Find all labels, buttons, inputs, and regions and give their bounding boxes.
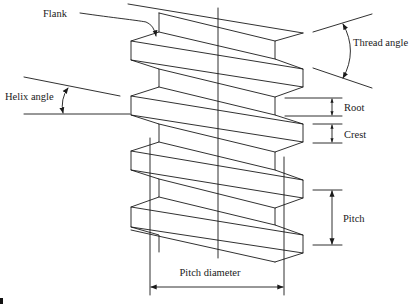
left-thread-profile	[131, 13, 159, 252]
crest-helix-lines	[128, 4, 303, 253]
root-dimension: Root	[285, 98, 365, 116]
helix-angle-arc-arrow-icon	[62, 88, 68, 113]
flank-label: Flank	[43, 8, 68, 19]
pitch-diameter-dimension: Pitch diameter	[150, 138, 284, 295]
thread-angle-callout: Thread angle	[313, 14, 408, 88]
crest-dimension: Crest	[313, 124, 366, 143]
thread-angle-lower-line	[313, 68, 372, 88]
flank-callout: Flank	[43, 8, 156, 36]
thread-angle-arc-arrow-icon	[343, 24, 351, 78]
right-thread-profile	[275, 33, 303, 262]
root-helix-lines	[131, 13, 275, 262]
helix-angle-label: Helix angle	[5, 91, 54, 102]
scan-artifact	[0, 298, 3, 304]
thread-angle-label: Thread angle	[353, 37, 408, 48]
root-label: Root	[344, 102, 365, 113]
thread-angle-upper-line	[313, 14, 372, 32]
pitch-dimension: Pitch	[313, 190, 365, 245]
helix-angle-callout: Helix angle	[5, 77, 130, 114]
thread-diagram: Pitch diameter Flank Helix angle Thread …	[0, 0, 409, 304]
pitch-diameter-label: Pitch diameter	[180, 267, 241, 278]
screw-thread	[128, 4, 303, 262]
pitch-label: Pitch	[343, 213, 365, 224]
flank-leader-arrow-icon	[80, 13, 156, 36]
crest-label: Crest	[344, 129, 366, 140]
